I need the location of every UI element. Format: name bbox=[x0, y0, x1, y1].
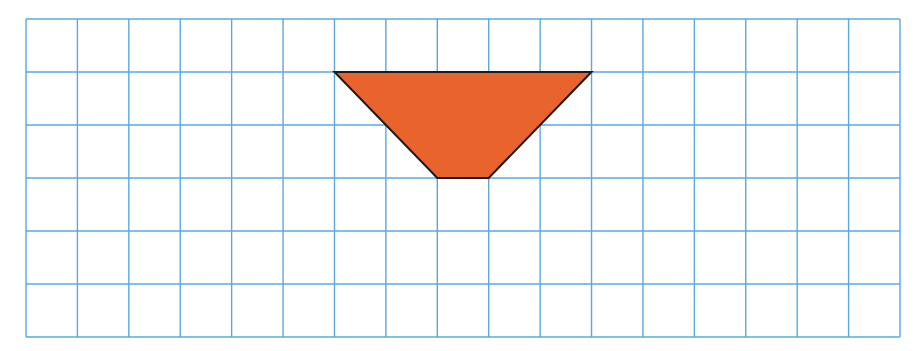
grid-diagram bbox=[0, 0, 920, 351]
